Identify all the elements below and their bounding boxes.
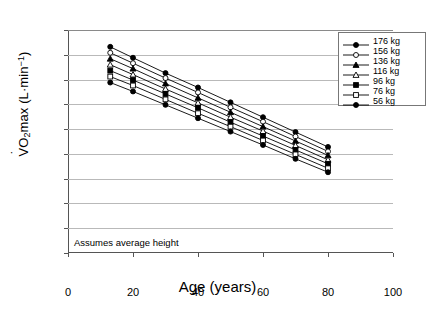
legend-item-56-kg[interactable]: 56 kg: [339, 96, 425, 106]
legend-item-156-kg[interactable]: 156 kg: [339, 46, 425, 56]
x-tick-mark: [328, 253, 329, 257]
legend-label: 156 kg: [373, 46, 400, 56]
legend-item-176-kg[interactable]: 176 kg: [339, 36, 425, 46]
legend-marker-icon: [339, 46, 373, 56]
data-point: [131, 55, 136, 60]
series-176-kg: [108, 44, 331, 149]
data-point: [108, 80, 113, 85]
x-tick-mark: [263, 253, 264, 257]
data-point: [326, 170, 331, 175]
data-point: [108, 74, 113, 79]
v-dot-glyph: V: [16, 148, 31, 157]
data-point: [131, 83, 136, 88]
series-56-kg: [108, 80, 331, 175]
data-point: [354, 103, 359, 108]
data-point: [196, 105, 201, 110]
legend-marker-icon: [339, 56, 373, 66]
data-point: [107, 56, 113, 61]
x-tick-mark: [198, 253, 199, 257]
middot-glyph: ·: [16, 88, 31, 92]
legend-item-116-kg[interactable]: 116 kg: [339, 66, 425, 76]
data-point: [131, 78, 136, 83]
x-tick-mark: [133, 253, 134, 257]
x-tick-label: 40: [178, 286, 218, 298]
units-close: ): [16, 51, 31, 55]
data-point: [108, 68, 113, 73]
legend-marker-icon: [339, 76, 373, 86]
data-point: [163, 102, 168, 107]
unit-min: min: [16, 66, 31, 87]
y-axis-label: VO2max (L·min−1): [16, 24, 32, 184]
legend-item-76-kg[interactable]: 76 kg: [339, 86, 425, 96]
data-point: [130, 72, 136, 77]
x-tick-mark: [393, 253, 394, 257]
data-point: [228, 100, 233, 105]
legend-item-96-kg[interactable]: 96 kg: [339, 76, 425, 86]
data-point: [163, 92, 168, 97]
x-tick-label: 60: [243, 286, 283, 298]
legend-marker-icon: [339, 96, 373, 106]
series-136-kg: [107, 56, 331, 158]
legend-marker-icon: [339, 66, 373, 76]
data-point: [108, 44, 113, 49]
data-point: [108, 50, 113, 55]
data-point: [196, 111, 201, 116]
x-tick-label: 20: [113, 286, 153, 298]
o-glyph: O: [16, 138, 31, 148]
data-point: [228, 129, 233, 134]
x-tick-mark: [68, 253, 69, 257]
data-point: [196, 116, 201, 121]
exponent-minus-one: −1: [16, 56, 26, 66]
legend-marker-icon: [339, 36, 373, 46]
legend-label: 116 kg: [373, 66, 399, 76]
data-point: [130, 66, 136, 71]
legend-label: 176 kg: [373, 36, 400, 46]
chart-container: VO2max (L·min−1) Age (years) 0.00.51.01.…: [0, 0, 435, 310]
data-point: [163, 86, 169, 91]
data-point: [107, 62, 113, 67]
series-156-kg: [108, 50, 331, 154]
legend-label: 96 kg: [373, 76, 395, 86]
data-point: [131, 89, 136, 94]
data-point: [196, 85, 201, 90]
chart-legend: 176 kg156 kg136 kg116 kg96 kg76 kg56 kg: [338, 32, 426, 106]
legend-marker-icon: [339, 86, 373, 96]
data-point: [163, 97, 168, 102]
legend-item-136-kg[interactable]: 136 kg: [339, 56, 425, 66]
x-tick-label: 80: [308, 286, 348, 298]
max-glyph: max: [16, 108, 31, 133]
data-point: [228, 124, 233, 129]
data-point: [293, 156, 298, 161]
series-96-kg: [108, 68, 331, 166]
legend-label: 76 kg: [373, 86, 395, 96]
data-point: [163, 71, 168, 76]
x-tick-label: 100: [373, 286, 413, 298]
x-tick-label: 0: [48, 286, 88, 298]
legend-label: 56 kg: [373, 96, 395, 106]
data-point: [261, 142, 266, 147]
legend-label: 136 kg: [373, 56, 400, 66]
units-open: (L: [16, 92, 31, 107]
subscript-two: 2: [22, 132, 32, 137]
series-76-kg: [108, 74, 331, 170]
